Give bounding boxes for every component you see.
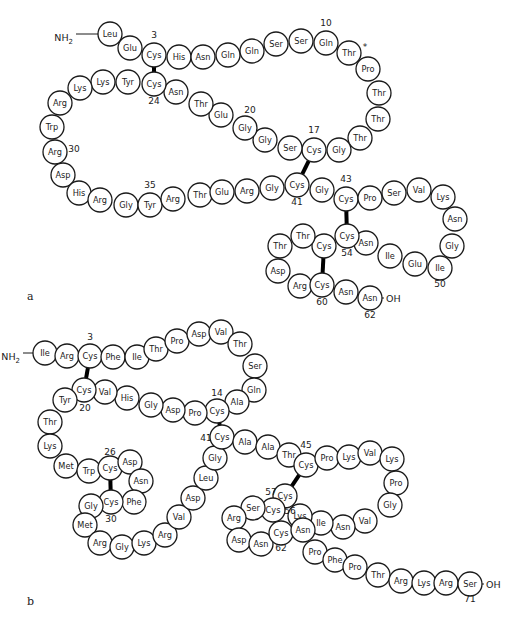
residue-name: Arg	[439, 578, 453, 588]
c-terminus-label: OH	[386, 293, 401, 304]
residue-name: Thr	[370, 570, 385, 580]
residue-name: Thr	[371, 88, 386, 98]
residue-name: Asn	[358, 238, 373, 248]
residue-b-68: Arg	[389, 569, 413, 593]
marker: *	[363, 42, 368, 52]
residue-name: Cys	[77, 385, 92, 395]
residue-name: Cys	[274, 528, 289, 538]
residue-b-69: Lys	[412, 571, 436, 595]
residue-name: Arg	[394, 576, 408, 586]
residue-a-7: Gln	[240, 39, 264, 63]
position-number: 26	[104, 447, 116, 457]
residue-name: Thr	[272, 241, 287, 251]
residue-name: Thr	[352, 133, 367, 143]
position-number: 20	[244, 105, 256, 115]
position-number: 43	[340, 174, 351, 184]
n-terminus-label: NH2	[54, 32, 73, 46]
residue-name: Thr	[42, 417, 57, 427]
residue-b-51: Gly	[378, 493, 402, 517]
position-number: 41	[200, 433, 211, 443]
residue-a-28: Arg	[48, 91, 72, 115]
residue-b-40: Gly	[203, 446, 227, 470]
residue-b-3: Cys	[78, 344, 102, 368]
residue-a-2: Glu	[118, 36, 142, 60]
residue-b-28: Asn	[129, 469, 153, 493]
residue-name: Pro	[362, 64, 375, 74]
residue-name: Asp	[270, 266, 285, 276]
residue-name: Arg	[93, 195, 107, 205]
residue-b-18: His	[115, 386, 139, 410]
residue-name: Lys	[138, 538, 151, 548]
residue-name: Ile	[132, 352, 142, 362]
residue-name: Gly	[238, 123, 252, 133]
residue-name: Arg	[60, 351, 74, 361]
residue-a-45: Ser	[382, 181, 406, 205]
residue-a-40: Gly	[260, 176, 284, 200]
residue-name: Lys	[437, 192, 450, 202]
position-number: 30	[105, 514, 117, 524]
residue-name: Asn	[335, 522, 350, 532]
residue-name: Val	[413, 185, 425, 195]
residue-name: Ser	[294, 36, 308, 46]
residue-name: Ile	[385, 251, 395, 261]
residue-a-25: Tyr	[116, 70, 140, 94]
residue-name: Tyr	[58, 395, 72, 405]
residue-a-35: Tyr	[138, 193, 162, 217]
residue-b-8: Asp	[187, 322, 211, 346]
residue-name: Lys	[386, 454, 399, 464]
residue-name: Gln	[247, 385, 261, 395]
panel-label-b: b	[27, 595, 34, 608]
residue-a-11: Thr	[337, 41, 361, 65]
residue-name: Ser	[387, 188, 401, 198]
position-number: 35	[144, 180, 155, 190]
residue-a-23: Asn	[164, 80, 188, 104]
residue-a-51: Glu	[403, 252, 427, 276]
residue-b-70: Arg	[434, 571, 458, 595]
position-number: 50	[434, 279, 446, 289]
residue-name: Glu	[215, 187, 229, 197]
residue-name: Ile	[316, 518, 326, 528]
residue-b-22: Thr	[38, 410, 62, 434]
residue-name: Ser	[246, 503, 260, 513]
residue-b-11: Ser	[243, 354, 267, 378]
residue-name: Ser	[283, 143, 297, 153]
residue-a-57: Thr	[268, 234, 292, 258]
residue-name: Trp	[45, 122, 58, 132]
disulfide-bond	[292, 475, 300, 486]
residue-b-25: Trp	[77, 459, 101, 483]
residue-name: Ala	[239, 437, 252, 447]
residue-name: Phe	[105, 352, 120, 362]
residue-name: Leu	[199, 473, 214, 483]
residue-b-67: Thr	[366, 563, 390, 587]
residue-name: Asp	[122, 457, 137, 467]
residue-name: Asp	[191, 329, 206, 339]
residue-b-10: Thr	[228, 332, 252, 356]
position-number: 60	[316, 297, 328, 307]
panel-label-a: a	[27, 290, 34, 303]
residue-name: Thr	[192, 190, 207, 200]
residue-name: Pro	[390, 478, 403, 488]
residue-a-62: Asn	[358, 286, 382, 310]
residue-a-24: Cys	[142, 72, 166, 96]
position-number: 3	[87, 332, 93, 342]
residue-name: Gly	[445, 241, 459, 251]
residue-a-13: Thr	[367, 81, 391, 105]
residue-name: Thr	[232, 339, 247, 349]
n-terminus-label: NH2	[1, 351, 20, 365]
residue-name: Asn	[253, 539, 268, 549]
residue-name: Pro	[171, 336, 184, 346]
position-number: 62	[275, 543, 286, 553]
residue-name: Glu	[408, 259, 422, 269]
residue-b-7: Pro	[165, 329, 189, 353]
disulfide-bond	[323, 258, 324, 273]
residue-name: Asp	[231, 535, 246, 545]
residue-name: Asn	[195, 52, 210, 62]
residue-name: Asn	[133, 476, 148, 486]
residue-b-63: Asn	[291, 518, 315, 542]
residue-name: Pro	[309, 547, 322, 557]
residue-b-15: Pro	[183, 401, 207, 425]
residue-name: Trp	[82, 466, 95, 476]
residue-name: Lys	[74, 83, 87, 93]
residue-name: Asn	[168, 87, 183, 97]
residue-name: Glu	[123, 43, 137, 53]
